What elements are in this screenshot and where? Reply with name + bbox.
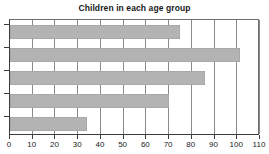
bar-chart: Children in each age group 0102030405060… [0,0,269,154]
x-axis-tick [191,135,192,139]
x-axis-tick [259,135,260,139]
x-axis-tick-label: 70 [156,140,180,149]
x-axis-tick [168,135,169,139]
y-axis-tick [4,70,9,71]
x-axis-tick [54,135,55,139]
x-axis-tick-label: 80 [179,140,203,149]
bar-slot [10,94,260,108]
y-axis-tick [4,93,9,94]
x-axis-tick [236,135,237,139]
x-axis-tick-label: 30 [65,140,89,149]
x-axis-tick [214,135,215,139]
bar[interactable] [10,94,169,108]
x-axis-tick [9,135,10,139]
bar[interactable] [10,25,180,39]
bar[interactable] [10,48,240,62]
x-axis-tick [145,135,146,139]
x-axis-tick-label: 0 [0,140,21,149]
bars-container [10,20,258,134]
x-axis-tick-label: 100 [224,140,248,149]
x-axis-tick-label: 40 [88,140,112,149]
x-axis-tick-label: 60 [133,140,157,149]
x-axis-tick-label: 20 [42,140,66,149]
bar[interactable] [10,71,205,85]
y-axis-tick [4,24,9,25]
bar-slot [10,48,260,62]
bar-slot [10,117,260,131]
bar[interactable] [10,117,87,131]
x-axis-tick-label: 110 [247,140,269,149]
x-axis-tick-label: 10 [20,140,44,149]
chart-title: Children in each age group [0,3,269,13]
x-axis-tick [77,135,78,139]
y-axis-tick [4,116,9,117]
plot-area [9,19,259,135]
x-axis-tick [123,135,124,139]
x-axis-tick [32,135,33,139]
bar-slot [10,71,260,85]
x-axis-tick [100,135,101,139]
y-axis-tick [4,47,9,48]
x-axis-tick-label: 90 [202,140,226,149]
bar-slot [10,25,260,39]
x-axis-tick-label: 50 [111,140,135,149]
